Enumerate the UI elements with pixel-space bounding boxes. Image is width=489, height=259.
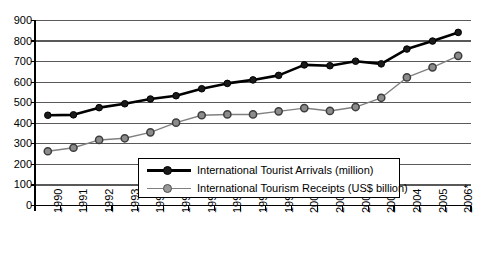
data-point <box>198 85 205 92</box>
legend-label-arrivals: International Tourist Arrivals (million) <box>197 164 373 176</box>
y-tick-label-0: 0 <box>0 200 32 211</box>
data-point <box>429 38 436 45</box>
data-point <box>96 104 103 111</box>
tourism-line-chart: 9008007006005004003002001000 19901991199… <box>0 0 489 259</box>
legend-marker-receipts-icon <box>147 182 191 194</box>
chart-plot-area <box>0 0 489 259</box>
data-point <box>44 148 51 155</box>
legend-marker-arrivals-icon <box>147 164 191 176</box>
y-tick-label-900: 900 <box>0 15 32 26</box>
data-point <box>404 46 411 53</box>
data-point <box>147 96 154 103</box>
data-point <box>121 135 128 142</box>
data-point <box>378 94 385 101</box>
data-point <box>455 29 462 36</box>
x-tick-label-1990: 1990 <box>53 188 64 212</box>
data-point <box>301 62 308 69</box>
data-point <box>249 111 256 118</box>
data-point <box>70 112 77 119</box>
x-tick-label-1992: 1992 <box>104 188 115 212</box>
data-point <box>326 107 333 114</box>
x-tick-label-2004: 2004 <box>412 188 423 212</box>
data-point <box>429 64 436 71</box>
x-tick-label-2005: 2005 <box>438 188 449 212</box>
y-tick-label-700: 700 <box>0 56 32 67</box>
chart-legend: International Tourist Arrivals (million)… <box>138 158 400 198</box>
data-point <box>378 61 385 68</box>
data-point <box>96 136 103 143</box>
data-point <box>301 104 308 111</box>
data-point <box>275 72 282 79</box>
y-tick-label-200: 200 <box>0 159 32 170</box>
data-point <box>327 62 334 69</box>
y-tick-label-100: 100 <box>0 179 32 190</box>
data-point <box>198 112 205 119</box>
y-tick-label-400: 400 <box>0 118 32 129</box>
data-point <box>275 108 282 115</box>
data-point <box>172 119 179 126</box>
series-line-receipts <box>48 56 458 151</box>
data-point <box>70 144 77 151</box>
data-point <box>250 77 257 84</box>
data-point <box>121 100 128 107</box>
data-point <box>455 52 462 59</box>
x-tick-label-1991: 1991 <box>78 188 89 212</box>
data-point <box>45 112 52 119</box>
data-point <box>147 129 154 136</box>
legend-label-receipts: International Tourism Receipts (US$ bill… <box>197 182 408 194</box>
data-point <box>173 92 180 99</box>
data-series-group <box>44 29 462 155</box>
legend-item-arrivals: International Tourist Arrivals (million) <box>147 163 373 177</box>
y-tick-label-800: 800 <box>0 36 32 47</box>
data-point <box>352 103 359 110</box>
y-tick-label-500: 500 <box>0 97 32 108</box>
data-point <box>403 74 410 81</box>
y-tick-label-300: 300 <box>0 138 32 149</box>
data-point <box>224 80 231 87</box>
data-point <box>224 111 231 118</box>
data-point <box>352 58 359 65</box>
legend-item-receipts: International Tourism Receipts (US$ bill… <box>147 181 408 195</box>
x-tick-label-2006: 2006* <box>463 184 474 213</box>
y-tick-label-600: 600 <box>0 77 32 88</box>
